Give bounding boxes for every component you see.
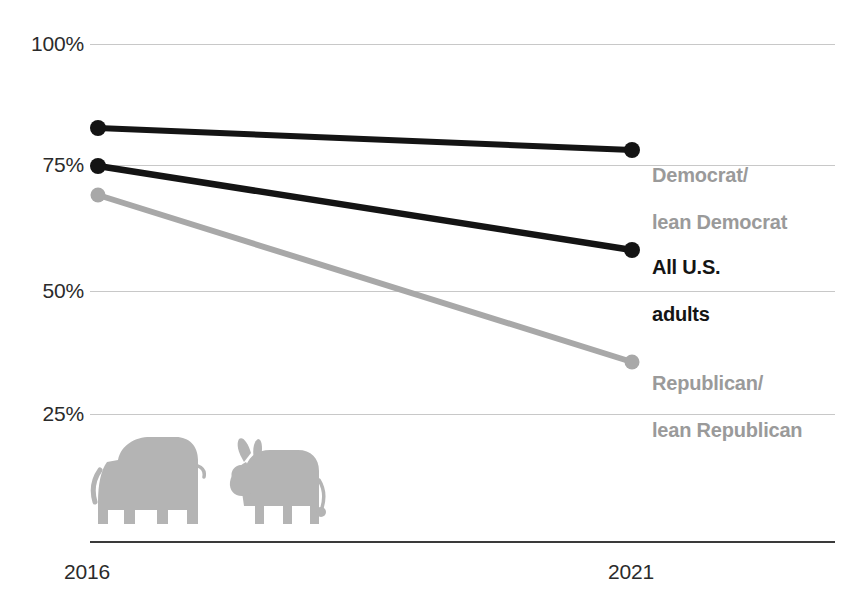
series-democrat-point-2021	[624, 142, 640, 158]
series-republican	[91, 188, 640, 370]
legend-label-democrat-line1: Democrat/	[652, 164, 748, 186]
x-tick-label-2016: 2016	[64, 560, 110, 584]
legend-label-republican: Republican/ lean Republican	[652, 348, 802, 442]
y-tick-label-75: 75%	[6, 154, 84, 175]
y-tick-label-25: 25%	[6, 403, 84, 424]
legend-label-republican-line1: Republican/	[652, 372, 763, 394]
series-republican-point-2021	[625, 355, 640, 370]
elephant-icon	[88, 432, 206, 530]
gridline-50	[90, 291, 835, 292]
donkey-icon	[216, 436, 328, 530]
legend-label-democrat-line2: lean Democrat	[652, 211, 787, 233]
series-democrat	[90, 120, 640, 158]
series-all-us-adults-point-2021	[624, 242, 640, 258]
legend-label-all-us-adults-line2: adults	[652, 303, 710, 325]
legend-label-republican-line2: lean Republican	[652, 419, 802, 441]
y-tick-label-50: 50%	[6, 280, 84, 301]
series-all-us-adults-line	[98, 166, 632, 250]
series-all-us-adults-point-2016	[90, 158, 106, 174]
series-republican-point-2016	[91, 188, 106, 203]
x-axis-line	[90, 541, 835, 543]
gridline-100	[90, 44, 835, 45]
line-chart: 100% 75% 50% 25% Democrat/ lean	[0, 0, 866, 615]
series-all-us-adults	[90, 158, 640, 258]
legend-label-all-us-adults-line1: All U.S.	[652, 256, 720, 278]
x-tick-label-2021: 2021	[608, 560, 654, 584]
legend-label-all-us-adults: All U.S. adults	[652, 232, 720, 326]
series-democrat-line	[98, 128, 632, 150]
legend-label-democrat: Democrat/ lean Democrat	[652, 140, 787, 234]
y-tick-label-100: 100%	[6, 33, 84, 54]
series-democrat-point-2016	[90, 120, 106, 136]
series-republican-line	[98, 195, 632, 362]
